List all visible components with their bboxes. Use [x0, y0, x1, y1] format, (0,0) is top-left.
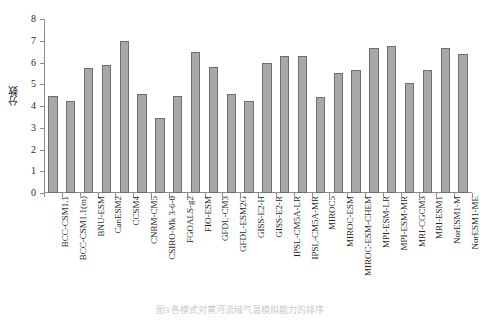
x-tick-label-text: IPSL-CM5A-LR	[292, 196, 302, 257]
bar	[244, 101, 253, 193]
bar	[84, 68, 93, 193]
x-tick-label: GFDL-CM3	[217, 196, 227, 241]
bar	[227, 94, 236, 193]
x-tick-label-text: MIROC-ESM-CHEM	[363, 196, 373, 276]
x-tick-label: CanESM2	[110, 196, 120, 234]
x-tick-label: BCC-CSM1.1(m)	[75, 196, 85, 260]
bar	[423, 70, 432, 193]
bar	[191, 52, 200, 193]
bar	[66, 101, 75, 193]
x-tick-label-text: BCC-CSM1.1	[60, 196, 70, 247]
bar	[298, 56, 307, 193]
x-tick-label-text: MPI-ESM-LR	[381, 196, 391, 248]
bar	[173, 96, 182, 193]
y-tick-label-0: 0	[31, 186, 36, 199]
bar-chart-figure: 分数 012345678 BCC-CSM1.1BCC-CSM1.1(m)BNU-…	[0, 0, 480, 324]
x-tick-label: GISS-E2-R	[271, 196, 281, 238]
x-tick-label: NorESM1-ME	[467, 196, 477, 250]
x-tick-label: MPI-ESM-LR	[378, 196, 388, 248]
x-tick-label: MIROC-ESM-CHEM	[360, 196, 370, 276]
x-tick-label-text: CSIRO-Mk 3-6-0	[167, 196, 177, 260]
bar-series	[44, 19, 472, 193]
x-tick-label-text: GFDL-ESM2G	[238, 196, 248, 252]
x-tick-label: CSIRO-Mk 3-6-0	[164, 196, 174, 260]
x-tick-label-text: FIO-ESM	[203, 196, 213, 232]
y-tick-label-3: 3	[31, 121, 36, 134]
bar	[120, 41, 129, 193]
x-tick-label: GISS-E2-H	[253, 196, 263, 238]
bar	[48, 96, 57, 193]
y-tick-label-1: 1	[31, 164, 36, 177]
x-tick-label: MRI-ESM1	[431, 196, 441, 239]
bar	[458, 54, 467, 193]
x-axis-tick-labels: BCC-CSM1.1BCC-CSM1.1(m)BNU-ESMCanESM2CCS…	[44, 196, 472, 300]
x-tick-label-text: GISS-E2-R	[274, 196, 284, 238]
x-tick-label: CCSM4	[128, 196, 138, 226]
y-tick-label-5: 5	[31, 77, 36, 90]
x-tick-label: GFDL-ESM2G	[235, 196, 245, 252]
x-tick-label-text: GFDL-CM3	[220, 196, 230, 241]
y-tick-label-6: 6	[31, 56, 36, 69]
bar	[262, 63, 271, 194]
x-tick-label-text: CanESM2	[113, 196, 123, 234]
x-tick-label: MRI-CGCM3	[414, 196, 424, 247]
x-tick-label-text: BNU-ESM	[96, 196, 106, 237]
x-tick-label: MPI-ESM-MR	[396, 196, 406, 251]
x-tick-label-text: NorESM1-ME	[470, 196, 480, 250]
bar	[441, 48, 450, 193]
bar	[405, 83, 414, 193]
bar	[334, 73, 343, 193]
bar	[155, 118, 164, 193]
x-tick-label-text: BCC-CSM1.1(m)	[78, 196, 88, 260]
x-tick-label-text: CNRM-CM5	[149, 196, 159, 244]
bar	[351, 70, 360, 193]
x-tick-label: FGOALS-g2	[182, 196, 192, 243]
y-axis-label: 分数	[8, 86, 22, 106]
x-tick-label-text: FGOALS-g2	[185, 196, 195, 243]
x-tick-label: CNRM-CM5	[146, 196, 156, 244]
x-tick-label-text: MPI-ESM-MR	[399, 196, 409, 251]
x-tick-label: IPSL-CM5A-LR	[289, 196, 299, 257]
x-tick-label-text: MIROC5	[327, 196, 337, 230]
x-tick-label: BCC-CSM1.1	[57, 196, 67, 247]
y-tick-label-7: 7	[31, 34, 36, 47]
x-tick-label-text: MIROC-ESM	[345, 196, 355, 247]
x-tick-label: BNU-ESM	[93, 196, 103, 237]
x-tick-label: MIROC5	[324, 196, 334, 230]
x-tick-label: FIO-ESM	[200, 196, 210, 232]
bar	[387, 46, 396, 193]
x-tick-label-text: CCSM4	[131, 196, 141, 226]
x-tick-label: NorESM1-M	[449, 196, 459, 244]
bar	[369, 48, 378, 193]
x-tick-label: MIROC-ESM	[342, 196, 352, 247]
x-tick-label-text: GISS-E2-H	[256, 196, 266, 238]
bar	[137, 94, 146, 193]
figure-caption: 图3 各模式对黄河流域气温模拟能力的排序	[0, 304, 480, 316]
x-tick-label-text: IPSL-CM5A-MR	[310, 196, 320, 260]
x-tick-label-text: NorESM1-M	[452, 196, 462, 244]
plot-area: 012345678	[44, 19, 472, 193]
bar	[102, 65, 111, 193]
bar	[316, 97, 325, 193]
bar	[280, 56, 289, 193]
bar	[209, 67, 218, 193]
y-tick-label-8: 8	[31, 12, 36, 25]
x-tick-label: IPSL-CM5A-MR	[307, 196, 317, 260]
x-tick-label-text: MRI-ESM1	[434, 196, 444, 239]
y-tick-label-4: 4	[31, 99, 36, 112]
x-tick-label-text: MRI-CGCM3	[417, 196, 427, 247]
y-tick-label-2: 2	[31, 143, 36, 156]
